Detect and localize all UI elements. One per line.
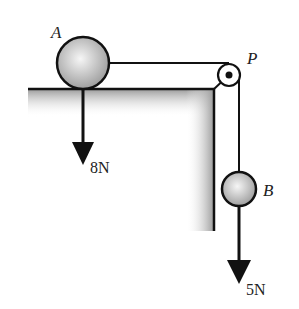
force-arrow-b	[227, 206, 251, 284]
label-force-8n: 8N	[90, 159, 110, 176]
ball-a	[57, 37, 109, 89]
label-p: P	[246, 49, 257, 68]
table	[28, 89, 214, 231]
ball-b	[222, 172, 256, 206]
pulley	[214, 64, 240, 89]
label-a: A	[50, 23, 62, 42]
label-b: B	[263, 181, 274, 200]
table-side-shade	[186, 89, 214, 231]
pulley-diagram: A P B 8N 5N	[0, 0, 299, 309]
label-force-5n: 5N	[246, 281, 266, 298]
pulley-axle	[226, 72, 233, 79]
